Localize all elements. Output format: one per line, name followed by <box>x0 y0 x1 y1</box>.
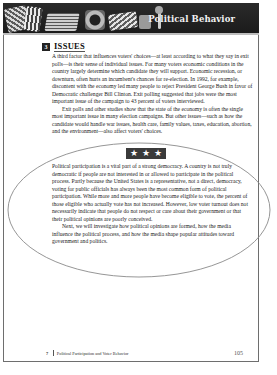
paragraph: A third factor that influences voters' c… <box>52 53 254 106</box>
banner-title: Political Behavior <box>148 14 235 24</box>
paragraph: Next, we will investigate how political … <box>52 223 252 246</box>
section-body: A third factor that influences voters' c… <box>52 53 254 136</box>
page-footer: 7 Political Participation and Voter Beha… <box>46 350 246 356</box>
newspaper-icon <box>23 6 42 32</box>
summary-body: Political participation is a vital part … <box>52 163 252 246</box>
radio-icon <box>85 10 105 30</box>
banner-divider <box>3 33 259 35</box>
newspaper-icon <box>108 11 138 31</box>
chapter-title: Political Participation and Voter Behavi… <box>57 351 129 356</box>
star-icon: ★ <box>142 148 150 159</box>
star-icon: ★ <box>130 148 138 159</box>
star-icon: ★ <box>154 148 162 159</box>
section-number: 3 <box>42 43 50 51</box>
chapter-number: 7 <box>46 351 48 356</box>
paragraph: Political participation is a vital part … <box>52 163 252 223</box>
star-divider: ★ ★ ★ <box>126 148 166 159</box>
newspaper-icon <box>44 13 79 31</box>
footer-divider <box>53 350 54 356</box>
section-heading: 3 ISSUES <box>42 42 85 52</box>
header-banner: Political Behavior <box>3 3 259 35</box>
page-number: 105 <box>234 350 243 356</box>
section-title: ISSUES <box>54 42 85 52</box>
paragraph: Exit polls and other studies show that t… <box>52 106 254 136</box>
